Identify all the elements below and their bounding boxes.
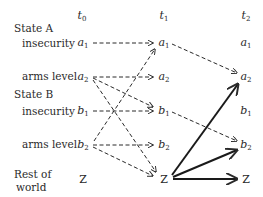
node-t2-z: Z: [242, 174, 250, 185]
node-t0-a2: a2: [77, 71, 88, 84]
arrow-a2-z: [93, 80, 156, 172]
node-t1-a1: a1: [158, 37, 169, 50]
time-header-t0: t0: [78, 10, 87, 23]
label-b-insecurity: insecurity: [22, 106, 75, 117]
label-b-arms: arms level: [22, 139, 77, 150]
node-t1-b2: b2: [158, 139, 170, 152]
node-t1-b1: b1: [158, 105, 170, 118]
label-rest-2: world: [16, 182, 46, 193]
label-rest-1: Rest of: [14, 169, 51, 180]
label-a-arms: arms level: [22, 71, 77, 82]
label-state-a: State A: [14, 23, 53, 34]
arrow-b2-z: [93, 147, 153, 176]
node-t0-a1: a1: [77, 37, 88, 50]
node-t2-b1: b1: [240, 105, 252, 118]
solid-arrows: [172, 84, 238, 179]
time-header-t2: t2: [242, 10, 251, 23]
arrow-b1-b2: [172, 112, 237, 141]
node-t1-a2: a2: [158, 71, 169, 84]
time-header-t1: t1: [160, 10, 169, 23]
node-t0-z: Z: [79, 174, 87, 185]
label-a-insecurity: insecurity: [22, 38, 75, 49]
node-t2-a2: a2: [240, 71, 251, 84]
arrow-z-b2: [173, 150, 237, 177]
node-t1-z: Z: [160, 174, 168, 185]
node-t2-a1: a1: [240, 37, 251, 50]
label-state-b: State B: [14, 89, 53, 100]
node-t0-b1: b1: [77, 105, 89, 118]
arrow-z-a2: [172, 84, 238, 175]
arrow-a1-a2: [172, 44, 237, 73]
node-t0-b2: b2: [77, 139, 89, 152]
arrow-b2-a1: [94, 49, 155, 141]
node-t2-b2: b2: [240, 139, 252, 152]
